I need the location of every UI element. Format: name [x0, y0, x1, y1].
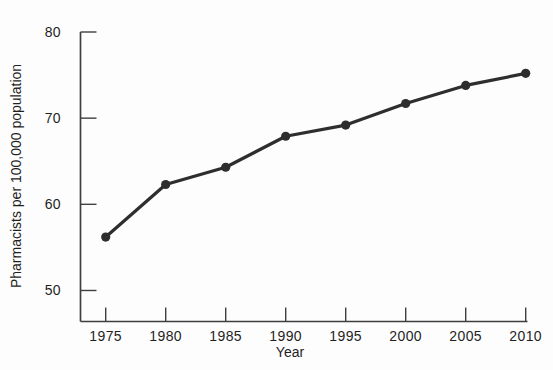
data-line [106, 73, 526, 237]
x-tick-label: 2000 [389, 328, 422, 344]
figure-page: 5060708019751980198519901995200020052010… [0, 0, 553, 370]
x-tick-label: 1995 [329, 328, 362, 344]
data-series [101, 69, 530, 242]
x-axis-label: Year [276, 344, 305, 360]
x-tick-label: 1980 [149, 328, 182, 344]
data-point [461, 81, 470, 90]
y-tick-label: 60 [45, 196, 61, 212]
y-tick-label: 80 [45, 24, 61, 40]
y-tick-label: 50 [45, 282, 61, 298]
y-tick-label: 70 [45, 110, 61, 126]
data-point [221, 163, 230, 172]
axis-tick-labels: 5060708019751980198519901995200020052010 [45, 24, 542, 344]
data-point [341, 120, 350, 129]
data-point [281, 132, 290, 141]
axis-ticks [81, 32, 526, 322]
axes [81, 32, 528, 322]
data-point [101, 232, 110, 241]
data-point [401, 99, 410, 108]
x-tick-label: 1985 [209, 328, 242, 344]
pharmacists-line-chart: 5060708019751980198519901995200020052010… [0, 0, 553, 370]
x-tick-label: 2005 [449, 328, 482, 344]
data-point [161, 180, 170, 189]
x-tick-label: 1990 [269, 328, 302, 344]
data-point [521, 69, 530, 78]
y-axis-label: Pharmacists per 100,000 population [8, 64, 24, 288]
x-tick-label: 2010 [509, 328, 542, 344]
x-tick-label: 1975 [89, 328, 122, 344]
